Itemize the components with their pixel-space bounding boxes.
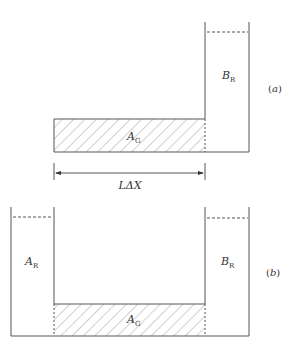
arrowhead-left-icon <box>55 171 61 175</box>
right-reservoir-label-b: BR <box>220 255 235 270</box>
dimension-label: LΔX <box>117 179 142 192</box>
panel-b-id: (b) <box>266 267 280 278</box>
diagram-canvas: BR AG (a) LΔX <box>0 0 302 357</box>
dimension-arrow: LΔX <box>54 163 205 192</box>
left-reservoir-label-b: AR <box>24 255 39 270</box>
arrowhead-right-icon <box>198 171 204 175</box>
panel-a: BR AG (a) <box>54 22 282 152</box>
panel-b: AR BR AG (b) <box>11 207 280 336</box>
reservoir-label-a: BR <box>221 69 236 84</box>
panel-a-id: (a) <box>268 83 282 94</box>
